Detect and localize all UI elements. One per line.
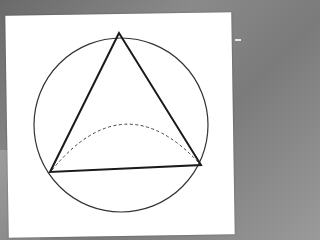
- dashed-arc: [52, 124, 199, 170]
- geometry-figure: [0, 0, 241, 240]
- inscribed-triangle: [50, 33, 201, 172]
